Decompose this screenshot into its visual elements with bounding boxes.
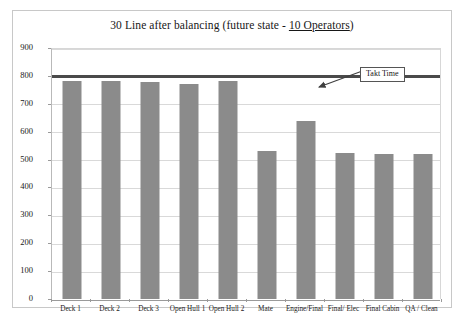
y-axis-tick-label: 0	[3, 294, 33, 303]
x-axis-tick-mark	[363, 299, 364, 302]
x-axis-tick-mark	[168, 299, 169, 302]
bar-slot	[403, 49, 442, 299]
y-axis-tick-label: 800	[3, 71, 33, 80]
y-axis-tick-label: 100	[3, 266, 33, 275]
chart-frame: 30 Line after balancing (future state - …	[12, 10, 452, 308]
y-axis-tick-label: 400	[3, 182, 33, 191]
chart-title-suffix: )	[350, 19, 354, 31]
bar[interactable]	[296, 121, 315, 299]
bar-slot	[91, 49, 130, 299]
y-axis-tick-mark	[48, 187, 51, 188]
x-axis-tick-label: Open Hull 1	[170, 305, 206, 314]
x-axis-tick-label: Final Cabin	[366, 305, 400, 314]
x-axis-tick-mark	[90, 299, 91, 302]
bar-slot	[130, 49, 169, 299]
bar[interactable]	[257, 151, 276, 299]
y-axis-tick-label: 500	[3, 155, 33, 164]
x-axis-tick-mark	[207, 299, 208, 302]
y-axis-tick-mark	[48, 271, 51, 272]
bar[interactable]	[335, 153, 354, 299]
y-axis-tick-label: 200	[3, 238, 33, 247]
x-axis-tick-mark	[246, 299, 247, 302]
x-axis-tick-label: Open Hull 2	[209, 305, 245, 314]
x-axis-tick-mark	[129, 299, 130, 302]
y-axis-tick-label: 900	[3, 43, 33, 52]
bar-slot	[208, 49, 247, 299]
x-axis-tick-mark	[402, 299, 403, 302]
bar[interactable]	[218, 81, 237, 299]
chart-title: 30 Line after balancing (future state - …	[13, 19, 451, 31]
x-axis: Deck 1Deck 2Deck 3Open Hull 1Open Hull 2…	[51, 299, 441, 321]
y-axis-tick-mark	[48, 215, 51, 216]
x-axis-tick-label: QA / Clean	[405, 305, 437, 314]
bar[interactable]	[374, 154, 393, 299]
bar[interactable]	[62, 81, 81, 299]
x-axis-tick-label: Deck 2	[99, 305, 120, 314]
bar-slot	[364, 49, 403, 299]
bars-layer	[52, 49, 440, 299]
x-axis-tick-label: Final/ Elec	[328, 305, 359, 314]
chart-title-emphasis: 10 Operators	[289, 19, 350, 31]
y-axis-tick-mark	[48, 243, 51, 244]
y-axis-tick-mark	[48, 48, 51, 49]
chart-title-prefix: 30 Line after balancing (future state -	[110, 19, 289, 31]
bar[interactable]	[413, 154, 432, 299]
y-axis-tick-mark	[48, 104, 51, 105]
y-axis-tick-mark	[48, 76, 51, 77]
y-axis-tick-mark	[48, 132, 51, 133]
x-axis-tick-label: Mate	[258, 305, 273, 314]
x-axis-tick-mark	[285, 299, 286, 302]
bar-slot	[169, 49, 208, 299]
takt-time-callout: Takt Time	[360, 67, 405, 82]
y-axis-tick-label: 700	[3, 99, 33, 108]
x-axis-tick-label: Engine/Final	[286, 305, 323, 314]
bar[interactable]	[179, 84, 198, 299]
x-axis-tick-label: Deck 3	[138, 305, 159, 314]
bar-slot	[52, 49, 91, 299]
bar-slot	[247, 49, 286, 299]
y-axis-tick-mark	[48, 160, 51, 161]
y-axis-tick-label: 600	[3, 127, 33, 136]
bar[interactable]	[101, 81, 120, 299]
x-axis-tick-mark	[441, 299, 442, 302]
bar[interactable]	[140, 82, 159, 299]
x-axis-tick-mark	[324, 299, 325, 302]
plot-area	[51, 48, 441, 299]
y-axis-tick-label: 300	[3, 210, 33, 219]
x-axis-tick-mark	[51, 299, 52, 302]
x-axis-tick-label: Deck 1	[60, 305, 81, 314]
